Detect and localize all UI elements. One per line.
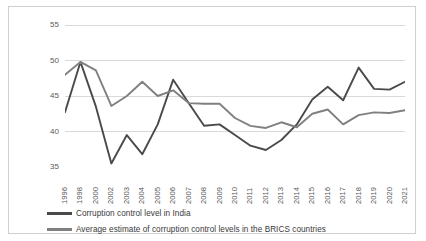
x-tick-label: 2013 — [276, 170, 287, 204]
x-tick-label: 2007 — [184, 170, 195, 204]
chart-card: Corruption control level 3540455055 1996… — [8, 6, 416, 234]
x-tick-label: 2006 — [168, 170, 179, 204]
x-tick-label: 2012 — [261, 170, 272, 204]
x-tick-label: 1996 — [60, 170, 71, 204]
x-tick-label: 2015 — [307, 170, 318, 204]
legend-item-brics: Average estimate of corruption control l… — [47, 222, 407, 236]
x-tick-label: 2014 — [292, 170, 303, 204]
y-tick-label: 40 — [33, 128, 59, 136]
x-tick-label: 2003 — [122, 170, 133, 204]
x-tick-label: 2008 — [199, 170, 210, 204]
x-tick-label: 1998 — [75, 170, 86, 204]
x-tick-label: 2017 — [338, 170, 349, 204]
series-lines — [65, 62, 405, 164]
x-tick-label: 2009 — [215, 170, 226, 204]
chart-svg — [65, 25, 405, 167]
y-tick-label: 55 — [33, 21, 59, 29]
x-tick-label: 2005 — [153, 170, 164, 204]
x-tick-label: 2019 — [369, 170, 380, 204]
x-tick-label: 2010 — [230, 170, 241, 204]
y-tick-label: 45 — [33, 92, 59, 100]
x-tick-label: 2020 — [385, 170, 396, 204]
chart-legend: Corruption control level in India Averag… — [47, 206, 407, 238]
x-tick-label: 2018 — [354, 170, 365, 204]
legend-item-india: Corruption control level in India — [47, 206, 407, 220]
y-tick-label: 35 — [33, 163, 59, 171]
x-tick-label: 2002 — [106, 170, 117, 204]
x-tick-label: 2011 — [245, 170, 256, 204]
series-line-brics — [65, 62, 405, 128]
x-axis-tick-labels: 1996199820002002200320042005200620072008… — [65, 168, 405, 204]
y-tick-label: 50 — [33, 57, 59, 65]
x-tick-label: 2016 — [323, 170, 334, 204]
legend-swatch-india — [47, 212, 72, 215]
x-tick-label: 2021 — [400, 170, 411, 204]
legend-label-india: Corruption control level in India — [76, 209, 191, 218]
plot-area — [65, 25, 405, 167]
x-tick-label: 2000 — [91, 170, 102, 204]
x-tick-label: 2004 — [137, 170, 148, 204]
legend-swatch-brics — [47, 228, 72, 231]
legend-label-brics: Average estimate of corruption control l… — [76, 225, 326, 234]
gridlines — [65, 25, 405, 167]
series-line-india — [65, 62, 405, 164]
